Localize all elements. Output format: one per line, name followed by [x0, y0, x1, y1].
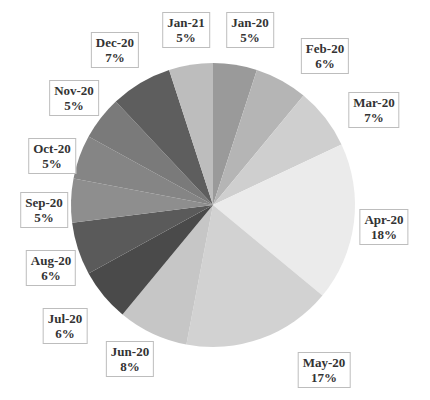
data-label-category: Aug-20: [31, 253, 71, 268]
data-label-nov-20: Nov-205%: [49, 80, 99, 116]
data-label-percent: 6%: [31, 268, 71, 283]
data-label-category: Jun-20: [111, 344, 149, 359]
data-label-category: Apr-20: [364, 212, 403, 227]
data-label-sep-20: Sep-205%: [20, 192, 68, 228]
data-label-percent: 5%: [25, 210, 63, 225]
data-label-jun-20: Jun-208%: [106, 341, 154, 377]
data-label-feb-20: Feb-206%: [301, 38, 349, 74]
data-label-percent: 8%: [111, 359, 149, 374]
data-label-aug-20: Aug-206%: [26, 250, 76, 286]
data-label-percent: 5%: [33, 156, 71, 171]
data-label-percent: 6%: [48, 326, 83, 341]
pie-slices: [71, 63, 355, 347]
data-label-percent: 17%: [303, 370, 346, 385]
data-label-category: Oct-20: [33, 141, 71, 156]
data-label-category: Mar-20: [353, 95, 394, 110]
data-label-category: Feb-20: [306, 41, 344, 56]
data-label-percent: 7%: [353, 110, 394, 125]
data-label-jul-20: Jul-206%: [43, 308, 88, 344]
data-label-category: Nov-20: [54, 83, 94, 98]
data-label-percent: 6%: [306, 56, 344, 71]
data-label-may-20: May-2017%: [298, 352, 351, 388]
data-label-apr-20: Apr-2018%: [359, 209, 408, 245]
data-label-category: Jul-20: [48, 311, 83, 326]
data-label-category: Jan-20: [231, 15, 269, 30]
data-label-jan-21: Jan-215%: [162, 12, 210, 48]
data-label-jan-20: Jan-205%: [226, 12, 274, 48]
data-label-category: Sep-20: [25, 195, 63, 210]
data-label-percent: 5%: [231, 30, 269, 45]
data-label-percent: 7%: [96, 50, 134, 65]
data-label-category: Jan-21: [167, 15, 205, 30]
data-label-category: May-20: [303, 355, 346, 370]
data-label-category: Dec-20: [96, 35, 134, 50]
data-label-percent: 18%: [364, 227, 403, 242]
data-label-percent: 5%: [54, 98, 94, 113]
data-label-oct-20: Oct-205%: [28, 138, 76, 174]
data-label-percent: 5%: [167, 30, 205, 45]
data-label-mar-20: Mar-207%: [348, 92, 399, 128]
data-label-dec-20: Dec-207%: [91, 32, 139, 68]
